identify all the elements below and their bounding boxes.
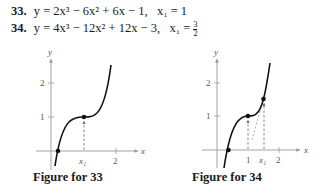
- figure-33-graph: y x 1 2 x₁ 2: [36, 47, 145, 170]
- y-tick-1: 1: [40, 112, 45, 122]
- figure-33-caption: Figure for 33: [33, 170, 103, 185]
- figures-canvas: y x 1 2 x₁ 2 y x 1 2 1 x₁ 2: [0, 0, 325, 193]
- figure-34-caption: Figure for 34: [192, 170, 262, 185]
- x-axis-label: x: [303, 145, 308, 155]
- x-tick-1: 1: [246, 155, 251, 165]
- y-tick-2: 2: [206, 78, 211, 88]
- x-tick-2: 2: [276, 155, 281, 165]
- x-tick-2: 2: [113, 156, 118, 166]
- root-point: [226, 148, 231, 153]
- x1-point: [82, 115, 87, 120]
- y-tick-2: 2: [40, 78, 45, 88]
- point-at-1: [246, 114, 251, 119]
- y-axis-label: y: [213, 47, 218, 57]
- y-axis-label: y: [47, 47, 52, 57]
- figure-34-graph: y x 1 2 1 x₁ 2: [202, 47, 308, 168]
- x-tick-x1: x₁: [258, 155, 266, 165]
- x-axis-label: x: [140, 146, 145, 156]
- root-point: [56, 149, 61, 154]
- x-tick-x1: x₁: [78, 156, 86, 166]
- x1-point: [261, 97, 266, 102]
- y-tick-1: 1: [206, 111, 211, 121]
